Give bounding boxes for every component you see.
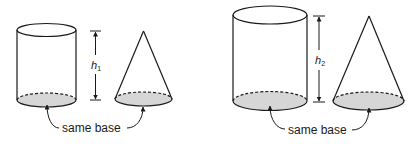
height-label-2: h2: [315, 54, 325, 67]
base-label-2: same base: [288, 123, 347, 137]
base-label-1: same base: [62, 121, 121, 135]
cone-1: [115, 31, 172, 106]
panel-1: h1 same base: [17, 24, 172, 136]
cylinder-2: [233, 6, 307, 111]
panel-2: h2 same base: [233, 6, 404, 137]
diagram-canvas: h1 same base: [0, 0, 411, 144]
cylinder-1: [17, 24, 76, 108]
height-label-1: h1: [91, 59, 101, 72]
cone-2: [333, 16, 404, 110]
